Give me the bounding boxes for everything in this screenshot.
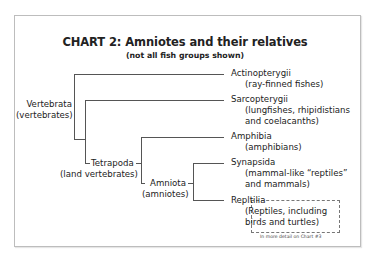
node-tetrapoda: Tetrapoda (land vertebrates) (60, 158, 138, 180)
leaf-name: Actinopterygii (231, 68, 323, 79)
synapsida-branch (193, 163, 224, 164)
node-vertebrata: Vertebrata (vertebrates) (16, 99, 72, 121)
node-tetrapoda-name: Tetrapoda (60, 158, 138, 169)
leaf-common: and mammals) (231, 179, 347, 190)
leaf-common: (lungfishes, rhipidistians (231, 105, 350, 116)
node-amniota-name: Amniota (142, 178, 189, 189)
leaf-actinopterygii: Actinopterygii (ray-finned fishes) (231, 68, 323, 90)
node-amniota: Amniota (amniotes) (142, 178, 189, 200)
amphibia-branch (141, 137, 224, 138)
chart-subtitle: (not all fish groups shown) (0, 51, 370, 60)
leaf-common: (mammal-like “reptiles” (231, 168, 347, 179)
reptilia-branch (193, 200, 224, 201)
node-tetrapoda-common: (land vertebrates) (60, 169, 138, 180)
node-vertebrata-common: (vertebrates) (16, 110, 72, 121)
node-amniota-common: (amniotes) (142, 189, 189, 200)
sarcopterygii-branch (85, 100, 224, 101)
actinopterygii-branch (74, 74, 224, 75)
node-vertebrata-name: Vertebrata (16, 99, 72, 110)
sarcopterygii-bracket (85, 100, 86, 164)
tetrapoda-bracket (141, 137, 142, 184)
leaf-synapsida: Synapsida (mammal-like “reptiles” and ma… (231, 157, 347, 190)
vertebrata-bracket (74, 74, 75, 140)
amniota-bracket (193, 163, 194, 201)
leaf-reptilia: Repltilia (Reptiles, including birds and… (231, 195, 327, 228)
leaf-name: Synapsida (231, 157, 347, 168)
leaf-common: and coelacanths) (231, 116, 350, 127)
chart-title: CHART 2: Amniotes and their relatives (0, 35, 370, 49)
leaf-common: birds and turtles) (231, 217, 327, 228)
leaf-sarcopterygii: Sarcopterygii (lungfishes, rhipidistians… (231, 94, 350, 127)
chart-3-reference-note: In more detail on Chart #3 (260, 234, 322, 239)
vertebrata-stub (74, 139, 85, 140)
leaf-name: Repltilia (231, 195, 327, 206)
leaf-common: (Reptiles, including (231, 206, 327, 217)
leaf-common: (ray-finned fishes) (231, 79, 323, 90)
leaf-common: (amphibians) (231, 142, 302, 153)
leaf-amphibia: Amphibia (amphibians) (231, 131, 302, 153)
leaf-name: Sarcopterygii (231, 94, 350, 105)
leaf-name: Amphibia (231, 131, 302, 142)
